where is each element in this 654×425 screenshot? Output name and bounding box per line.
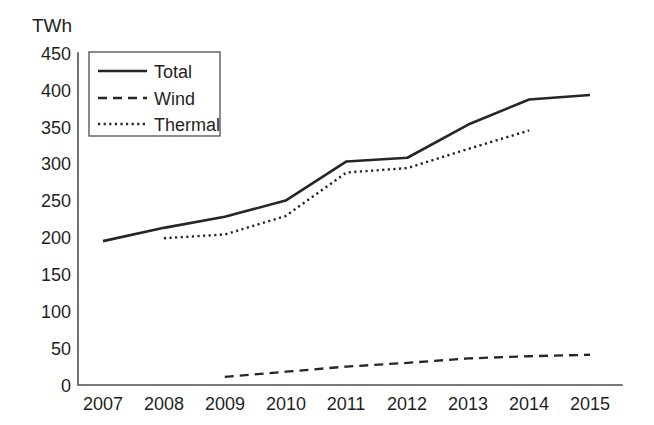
- legend-label-thermal: Thermal: [154, 115, 220, 135]
- x-tick-label: 2009: [205, 394, 245, 414]
- x-tick-label: 2014: [509, 394, 549, 414]
- y-tick-label: 100: [41, 302, 71, 322]
- y-tick-label: 450: [41, 44, 71, 64]
- series-line-wind: [225, 355, 590, 377]
- legend-label-wind: Wind: [154, 89, 195, 109]
- y-tick-label: 50: [51, 339, 71, 359]
- y-tick-label: 350: [41, 118, 71, 138]
- series-group: [103, 95, 590, 377]
- line-chart: TWh 450 400 350 300 250 200 150 100 50 0…: [0, 0, 654, 425]
- x-axis-tick-labels: 2007 2008 2009 2010 2011 2012 2013 2014 …: [83, 394, 610, 414]
- y-tick-label: 200: [41, 228, 71, 248]
- x-tick-label: 2008: [144, 394, 184, 414]
- chart-legend: Total Wind Thermal: [89, 52, 220, 136]
- legend-label-total: Total: [154, 62, 192, 82]
- x-tick-label: 2007: [83, 394, 123, 414]
- series-line-thermal: [164, 130, 529, 238]
- y-tick-label: 0: [61, 376, 71, 396]
- x-tick-label: 2012: [387, 394, 427, 414]
- y-tick-label: 250: [41, 191, 71, 211]
- chart-canvas: TWh 450 400 350 300 250 200 150 100 50 0…: [0, 0, 654, 425]
- y-axis-tick-labels: 450 400 350 300 250 200 150 100 50 0: [41, 44, 71, 396]
- x-tick-label: 2015: [570, 394, 610, 414]
- x-tick-label: 2011: [327, 394, 366, 414]
- x-tick-label: 2013: [448, 394, 488, 414]
- y-tick-label: 300: [41, 154, 71, 174]
- x-tick-label: 2010: [266, 394, 306, 414]
- y-tick-label: 150: [41, 265, 71, 285]
- y-tick-label: 400: [41, 81, 71, 101]
- y-axis-unit-label: TWh: [32, 15, 72, 36]
